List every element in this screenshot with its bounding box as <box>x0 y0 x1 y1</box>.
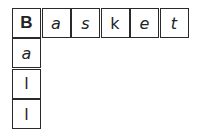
cell-across-2: a <box>42 8 71 38</box>
cell-across-4: k <box>101 8 130 38</box>
cell-across-3: s <box>71 8 100 38</box>
cell-down-2: a <box>12 38 41 68</box>
cell-across-1: B <box>12 8 41 38</box>
cell-down-4: l <box>12 99 41 129</box>
cell-across-6: t <box>160 8 189 38</box>
cell-down-3: l <box>12 69 41 99</box>
cell-across-5: e <box>130 8 159 38</box>
